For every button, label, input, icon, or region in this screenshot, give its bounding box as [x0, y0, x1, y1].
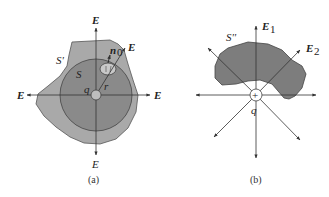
- label-e-diag: E: [127, 41, 135, 53]
- gauss-law-figure: E E E E E S' S q r n 0 (a) + E 1 E 2 S'': [0, 0, 329, 197]
- label-r: r: [104, 80, 109, 92]
- caption-b: (b): [250, 174, 262, 186]
- label-e2-sub: 2: [314, 45, 320, 57]
- label-s: S: [76, 68, 82, 80]
- label-e2: E: [305, 42, 313, 54]
- charge-q: [91, 90, 101, 100]
- label-e-left: E: [16, 89, 24, 101]
- panel-a: E E E E E S' S q r n 0 (a): [16, 14, 161, 186]
- label-n0-sub: 0: [117, 46, 123, 58]
- panel-b: + E 1 E 2 S'' q (b): [196, 20, 320, 186]
- label-s-prime: S': [56, 54, 65, 66]
- field-arrow-lower-left: [214, 95, 256, 137]
- charge-sign: +: [252, 89, 258, 101]
- label-e-bottom: E: [91, 158, 99, 170]
- label-e-top: E: [91, 14, 99, 26]
- field-arrow-lower-right: [256, 95, 300, 140]
- label-q-b: q: [251, 104, 257, 116]
- label-s-double-prime: S'': [226, 31, 237, 43]
- label-q-a: q: [84, 83, 90, 95]
- caption-a: (a): [88, 174, 99, 186]
- label-n0: n: [110, 44, 116, 56]
- label-e1-sub: 1: [270, 23, 276, 35]
- label-e-right: E: [153, 89, 161, 101]
- surface-patch: [100, 63, 116, 75]
- label-e1: E: [261, 20, 269, 32]
